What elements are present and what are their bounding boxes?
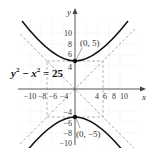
x-axis-label: x (141, 92, 146, 102)
svg-text:10: 10 (120, 92, 128, 101)
svg-text:8: 8 (112, 92, 116, 101)
svg-text:−6: −6 (49, 92, 58, 101)
leader-top (76, 48, 82, 60)
svg-text:−8: −8 (38, 92, 47, 101)
svg-text:−8: −8 (63, 129, 72, 138)
svg-text:4: 4 (95, 92, 99, 101)
leader-bottom (76, 118, 80, 128)
svg-text:−4: −4 (63, 108, 72, 117)
svg-text:10: 10 (64, 29, 72, 38)
svg-text:−6: −6 (63, 119, 72, 128)
vertex-top-label: (0, 5) (80, 38, 100, 48)
svg-text:−10: −10 (59, 139, 72, 148)
x-axis-arrow-icon (140, 87, 146, 92)
equation-label: y2 − x2 = 25 (11, 66, 63, 79)
x-tick-labels: −10 −8 −6 −4 4 6 8 10 (24, 92, 128, 101)
svg-text:6: 6 (68, 50, 72, 59)
y-axis-label: y (66, 7, 71, 17)
svg-text:4: 4 (68, 63, 72, 72)
svg-text:8: 8 (68, 40, 72, 49)
vertex-bottom-label: (0, −5) (76, 129, 101, 139)
y-tick-labels: 10 8 6 4 −4 −6 −8 −10 (59, 29, 72, 148)
asymptote-y-equals-x (20, 29, 135, 144)
y-axis-arrow-icon (73, 8, 78, 14)
vertex-bottom-point (73, 115, 77, 119)
svg-text:6: 6 (103, 92, 107, 101)
svg-text:−10: −10 (24, 92, 37, 101)
svg-text:−4: −4 (60, 92, 69, 101)
